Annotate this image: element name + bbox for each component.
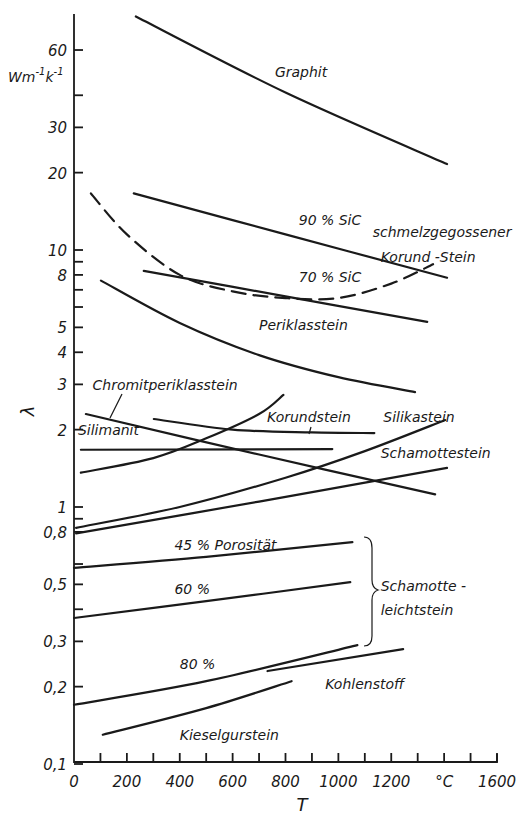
curve-label: Chromitperiklasstein (93, 377, 238, 393)
y-tick-label: 10 (48, 242, 67, 260)
chromitperiklasstein-leader (110, 394, 122, 418)
curve-periklasstein (101, 281, 415, 392)
x-tick-label: 800 (271, 773, 300, 791)
curve-label: 60 % (174, 581, 210, 597)
x-tick-label: 200 (113, 773, 142, 791)
x-tick-label: 400 (165, 773, 194, 791)
curve-70-sic (144, 271, 427, 322)
y-tick-label: 0,5 (43, 576, 67, 594)
curve-label: 90 % SiC (299, 212, 362, 228)
curve-label: 70 % SiC (299, 269, 362, 285)
y-tick-label: 5 (57, 319, 67, 337)
y-tick-label: 0,3 (43, 633, 67, 651)
y-tick-label: 60 (48, 42, 67, 60)
curve-label: Kohlenstoff (325, 676, 406, 692)
curve-silimanit (81, 449, 332, 450)
curve-label: 45 % Porosität (174, 537, 277, 553)
curve-label: 80 % (180, 656, 216, 672)
data-curves (74, 17, 447, 735)
y-tick-label: 0,1 (43, 756, 67, 774)
curve-schamotteleichtstein-80 (74, 645, 357, 705)
curve-schmelzgegossener-korund-stein (91, 193, 433, 299)
y-unit-label: Wm-1k-1 (8, 66, 64, 85)
curve-schamottestein (76, 468, 447, 533)
curve-graphit (136, 17, 447, 165)
curve-label: Graphit (275, 64, 328, 80)
curve-label: leichtstein (381, 602, 454, 618)
curve-label: Schamotte - (381, 578, 466, 594)
y-tick-label: 20 (48, 165, 67, 183)
thermal-conductivity-chart: 020040060080010001200°C16006030201085432… (0, 0, 522, 827)
x-tick-label: 600 (218, 773, 247, 791)
x-tick-label: 1600 (478, 773, 516, 791)
y-tick-label: 1 (57, 499, 67, 517)
curve-label: Kieselgurstein (180, 727, 279, 743)
y-tick-label: 3 (57, 376, 67, 394)
schamotteleichtstein-brace (364, 537, 378, 646)
x-tick-label: 1000 (319, 773, 357, 791)
curve-label: Korund -Stein (381, 249, 476, 265)
y-tick-label: 0,2 (43, 679, 67, 697)
y-tick-label: 30 (48, 119, 67, 137)
curve-label: Silikastein (383, 409, 454, 425)
curve-label: Schamottestein (381, 445, 491, 461)
y-tick-label: 0,8 (43, 524, 67, 542)
x-tick-label: °C (435, 773, 454, 791)
curve-label: Silimanit (78, 422, 140, 438)
curve-label: Periklasstein (259, 317, 348, 333)
curve-schamotteleichtstein-60 (74, 582, 350, 618)
x-axis-label: T (297, 794, 310, 815)
x-tick-label: 1200 (372, 773, 410, 791)
curve-label: Korundstein (267, 409, 351, 425)
y-axis-label: λ (17, 406, 38, 418)
x-tick-label: 0 (69, 773, 79, 791)
curve-labels: Graphit90 % SiCschmelzgegossenerKorund -… (78, 64, 513, 743)
curve-label: schmelzgegossener (373, 224, 513, 240)
y-tick-label: 8 (57, 267, 67, 285)
curve-kohlenstoff (268, 649, 404, 671)
y-tick-label: 2 (57, 422, 67, 440)
y-tick-label: 4 (57, 344, 67, 362)
